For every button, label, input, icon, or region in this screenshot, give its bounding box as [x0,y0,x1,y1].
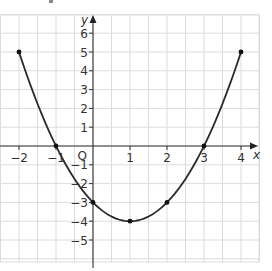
data-point [128,219,133,224]
data-point [165,200,170,205]
y-tick-label: 4 [80,64,88,78]
y-tick-label: −2 [70,177,88,191]
cut-off-heading-fragment [49,0,53,3]
y-tick-label: 1 [80,121,88,135]
y-tick-label: 3 [80,83,88,97]
data-point [91,200,96,205]
data-point [239,50,244,55]
x-tick-label: −2 [10,151,28,165]
y-tick-label: −5 [70,234,88,248]
origin-label: O [78,149,87,163]
y-tick-label: −3 [70,196,88,210]
axes [0,15,258,268]
data-point [54,144,59,149]
y-axis-label: y [80,13,89,27]
y-tick-label: −4 [70,215,88,229]
y-axis-arrow-icon [90,15,97,23]
y-tick-label: 5 [80,46,88,60]
y-tick-label: 6 [80,27,88,41]
x-tick-label: 2 [163,151,171,165]
grid [0,14,260,262]
x-tick-label: 4 [237,151,245,165]
data-point [17,50,22,55]
x-axis-label: x [252,148,261,162]
y-tick-label: 2 [80,102,88,116]
chart: −2−11234654321−1−2−3−4−5 x y O [0,0,272,271]
tick-labels: −2−11234654321−1−2−3−4−5 [10,27,245,248]
x-tick-label: 1 [126,151,134,165]
data-point [202,144,207,149]
